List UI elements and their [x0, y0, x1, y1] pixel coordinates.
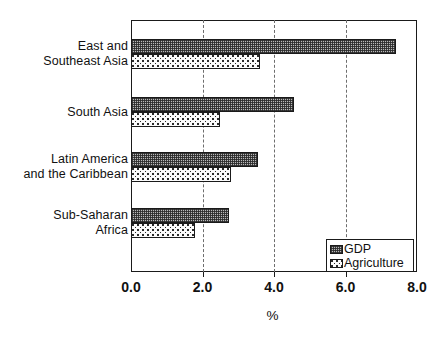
- x-axis-tick-label-0: 0.0: [101, 279, 161, 295]
- bar-gdp-0: [131, 39, 396, 54]
- legend-label-agriculture: Agriculture: [344, 257, 404, 270]
- gridline: [346, 20, 347, 272]
- legend-label-gdp: GDP: [344, 243, 371, 256]
- category-label-3: Sub-Saharan Africa: [53, 208, 128, 238]
- x-axis-tick-label-4: 8.0: [387, 279, 437, 295]
- x-axis-tick-label-2: 4.0: [244, 279, 304, 295]
- x-axis-tick-mark: [274, 272, 275, 277]
- crosshatch-swatch-icon: [330, 245, 343, 254]
- category-label-2: Latin America and the Caribbean: [23, 152, 128, 182]
- dots-swatch-icon: [330, 259, 343, 268]
- bar-agriculture-1: [131, 112, 220, 127]
- gridline: [274, 20, 275, 272]
- bar-gdp-3: [131, 208, 229, 223]
- legend: GDP Agriculture: [326, 239, 414, 272]
- legend-item-gdp[interactable]: GDP: [330, 242, 413, 256]
- x-axis-tick-mark: [203, 272, 204, 277]
- category-label-1: South Asia: [67, 105, 128, 120]
- category-label-0: East and Southeast Asia: [43, 39, 128, 69]
- legend-item-agriculture[interactable]: Agriculture: [330, 256, 413, 270]
- bar-gdp-1: [131, 97, 294, 112]
- bar-agriculture-2: [131, 167, 231, 182]
- x-axis-title-text: %: [266, 308, 278, 323]
- x-axis-tick-label-3: 6.0: [316, 279, 376, 295]
- bar-agriculture-3: [131, 223, 195, 238]
- x-axis-title: %: [0, 308, 437, 323]
- x-axis-tick-mark: [346, 272, 347, 277]
- bar-chart: East and Southeast AsiaSouth AsiaLatin A…: [0, 0, 437, 341]
- x-axis-tick-label-1: 2.0: [173, 279, 233, 295]
- bar-agriculture-0: [131, 54, 260, 69]
- bar-gdp-2: [131, 152, 258, 167]
